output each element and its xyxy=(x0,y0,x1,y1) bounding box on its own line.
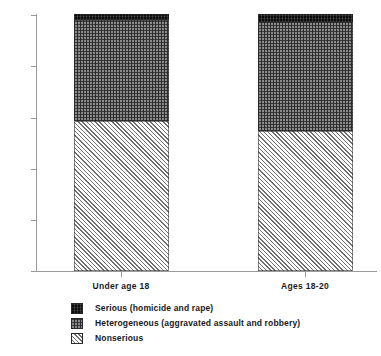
y-axis-tick-80 xyxy=(31,66,37,67)
legend-label-serious: Serious (homicide and rape) xyxy=(95,303,213,314)
chart-legend: Serious (homicide and rape) Heterogeneou… xyxy=(71,302,371,347)
x-axis-line xyxy=(36,271,377,272)
legend-item-nonserious[interactable]: Nonserious xyxy=(71,332,371,347)
y-axis-tick-100 xyxy=(31,15,37,16)
y-axis-tick-60 xyxy=(31,118,37,119)
bar-segment-serious-ages-18-20[interactable] xyxy=(258,14,353,22)
x-axis-label-ages-18-20: Ages 18-20 xyxy=(235,282,375,291)
x-axis-tick-ages-18-20 xyxy=(305,272,306,277)
y-axis-tick-0 xyxy=(31,271,37,272)
legend-item-heterogeneous[interactable]: Heterogeneous (aggravated assault and ro… xyxy=(71,317,371,332)
bar-under-age-18[interactable] xyxy=(74,14,169,271)
legend-swatch-nonserious-icon xyxy=(71,333,83,344)
bar-segment-nonserious-ages-18-20[interactable] xyxy=(258,131,353,271)
legend-item-serious[interactable]: Serious (homicide and rape) xyxy=(71,302,371,317)
legend-swatch-heterogeneous-icon xyxy=(71,318,83,329)
bar-segment-serious-under-age-18[interactable] xyxy=(74,14,169,20)
plot-area: 100 80 60 40 20 0 Under age 18 Ages 18-2… xyxy=(36,14,376,272)
y-axis-tick-40 xyxy=(31,169,37,170)
legend-label-heterogeneous: Heterogeneous (aggravated assault and ro… xyxy=(95,318,300,329)
y-axis-line xyxy=(36,14,37,272)
x-axis-tick-under-age-18 xyxy=(121,272,122,277)
bar-ages-18-20[interactable] xyxy=(258,14,353,271)
bar-segment-heterogeneous-under-age-18[interactable] xyxy=(74,20,169,121)
legend-label-nonserious: Nonserious xyxy=(95,333,143,344)
x-axis-label-under-age-18: Under age 18 xyxy=(51,282,191,291)
bar-segment-nonserious-under-age-18[interactable] xyxy=(74,121,169,271)
stacked-bar-chart: 100 80 60 40 20 0 Under age 18 Ages 18-2… xyxy=(0,0,381,356)
legend-swatch-serious-icon xyxy=(71,303,83,314)
y-axis-tick-20 xyxy=(31,220,37,221)
bar-segment-heterogeneous-ages-18-20[interactable] xyxy=(258,22,353,131)
